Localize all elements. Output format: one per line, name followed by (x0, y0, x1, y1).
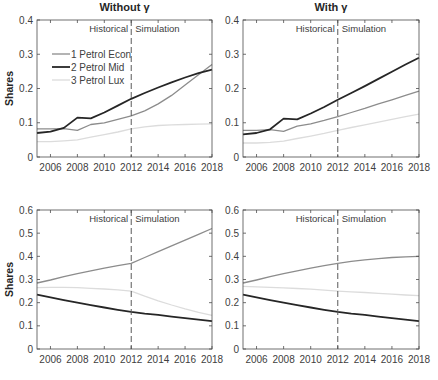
legend: 1 Petrol Econ2 Petrol Mid3 Petrol Lux (52, 49, 131, 86)
y-tick-label: 0 (233, 152, 239, 163)
y-tick-label: 0.6 (225, 205, 239, 216)
x-tick-label: 2010 (93, 162, 116, 173)
historical-label: Historical (296, 213, 335, 224)
x-tick-label: 2006 (245, 354, 268, 365)
simulation-label: Simulation (135, 213, 179, 224)
x-tick-label: 2016 (174, 162, 197, 173)
y-tick-label: 0.3 (19, 274, 33, 285)
plot-area (243, 210, 419, 349)
x-tick-label: 2010 (93, 354, 116, 365)
y-tick-label: 0.2 (225, 83, 239, 94)
y-tick-label: 0.1 (19, 320, 33, 331)
y-tick-label: 0 (233, 344, 239, 355)
y-tick-label: 0.5 (225, 228, 239, 239)
y-tick-label: 0.2 (19, 297, 33, 308)
y-axis-label: Shares (3, 71, 15, 106)
panel-top-right-with-gamma: With γHistoricalSimulation00.10.20.30.42… (225, 1, 430, 173)
x-tick-label: 2006 (39, 354, 62, 365)
simulation-label: Simulation (342, 23, 386, 34)
plot-area (37, 20, 212, 157)
x-tick-label: 2016 (381, 162, 404, 173)
x-tick-label: 2014 (354, 354, 377, 365)
x-tick-label: 2010 (300, 354, 323, 365)
x-tick-label: 2008 (66, 354, 89, 365)
x-tick-label: 2018 (201, 354, 224, 365)
y-tick-label: 0 (27, 344, 33, 355)
x-tick-label: 2012 (327, 162, 350, 173)
panel-top-left-without-gamma: Without γSharesHistoricalSimulation00.10… (3, 1, 224, 173)
y-tick-label: 0.1 (225, 320, 239, 331)
x-tick-label: 2018 (408, 162, 431, 173)
legend-label: 2 Petrol Mid (71, 62, 124, 73)
historical-label: Historical (89, 213, 128, 224)
chart-title: With γ (315, 1, 349, 13)
x-tick-label: 2014 (147, 162, 170, 173)
historical-label: Historical (296, 23, 335, 34)
x-tick-label: 2012 (120, 162, 143, 173)
plot-area (243, 20, 419, 157)
x-tick-label: 2018 (408, 354, 431, 365)
y-tick-label: 0.3 (225, 274, 239, 285)
y-tick-label: 0.6 (19, 205, 33, 216)
y-tick-label: 0.4 (19, 251, 33, 262)
y-tick-label: 0 (27, 152, 33, 163)
x-tick-label: 2018 (201, 162, 224, 173)
y-tick-label: 0.5 (19, 228, 33, 239)
legend-label: 3 Petrol Lux (71, 75, 124, 86)
y-tick-label: 0.3 (225, 49, 239, 60)
y-axis-label: Shares (3, 262, 15, 297)
x-tick-label: 2008 (66, 162, 89, 173)
x-tick-label: 2012 (327, 354, 350, 365)
y-tick-label: 0.3 (19, 49, 33, 60)
figure: Without γSharesHistoricalSimulation00.10… (0, 0, 438, 380)
x-tick-label: 2008 (272, 354, 295, 365)
x-tick-label: 2012 (120, 354, 143, 365)
y-tick-label: 0.2 (19, 83, 33, 94)
x-tick-label: 2010 (300, 162, 323, 173)
y-tick-label: 0.4 (225, 251, 239, 262)
x-tick-label: 2016 (174, 354, 197, 365)
y-tick-label: 0.4 (225, 15, 239, 26)
y-tick-label: 0.1 (19, 117, 33, 128)
simulation-label: Simulation (342, 213, 386, 224)
x-tick-label: 2016 (381, 354, 404, 365)
y-tick-label: 0.2 (225, 297, 239, 308)
x-tick-label: 2014 (354, 162, 377, 173)
legend-label: 1 Petrol Econ (71, 49, 131, 60)
x-tick-label: 2006 (39, 162, 62, 173)
y-tick-label: 0.4 (19, 15, 33, 26)
historical-label: Historical (89, 23, 128, 34)
y-tick-label: 0.1 (225, 117, 239, 128)
simulation-label: Simulation (135, 23, 179, 34)
x-tick-label: 2014 (147, 354, 170, 365)
x-tick-label: 2008 (272, 162, 295, 173)
plot-area (37, 210, 212, 349)
panel-bottom-left-without-gamma: SharesHistoricalSimulation00.10.20.30.40… (3, 205, 224, 366)
chart-title: Without γ (100, 1, 151, 13)
x-tick-label: 2006 (245, 162, 268, 173)
panel-bottom-right-with-gamma: HistoricalSimulation00.10.20.30.40.50.62… (225, 205, 430, 366)
